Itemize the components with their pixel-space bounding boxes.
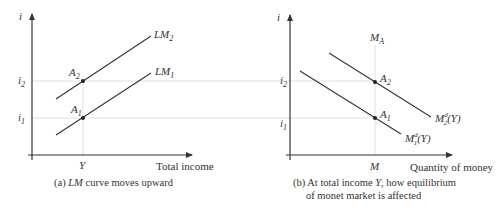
tick-i2: i2 [18, 74, 25, 89]
gridlines [32, 45, 375, 155]
md1-label: Md1(Y) [404, 131, 431, 147]
tick-i1: i1 [280, 117, 287, 132]
left-panel: i i2 i1 Y Total income LM2 LM1 A2 A1 (a)… [18, 10, 214, 189]
x-axis-label: Quantity of money [410, 161, 494, 173]
tick-m: M [369, 160, 380, 172]
md2-label: Md2(Y) [434, 111, 461, 127]
lm1-label: LM1 [154, 65, 174, 80]
a1-label: A1 [70, 103, 82, 118]
a2-label: A2 [379, 72, 391, 87]
caption-b-line2: of monet market is affected [306, 190, 422, 201]
lm2-label: LM2 [153, 28, 173, 43]
tick-i2: i2 [280, 74, 287, 89]
right-panel: i i2 i1 MA M Quantity of money A2 A1 Md2… [277, 11, 494, 201]
tick-i1: i1 [18, 111, 25, 126]
lm-diagram: i i2 i1 Y Total income LM2 LM1 A2 A1 (a)… [0, 0, 504, 210]
y-axis-label: i [277, 11, 280, 23]
point-a1 [373, 116, 377, 120]
a2-label: A2 [68, 66, 80, 81]
point-a2 [81, 79, 85, 83]
caption-a: (a) LM curve moves upward [54, 177, 174, 189]
y-axis-label: i [19, 10, 22, 22]
tick-y: Y [79, 159, 87, 171]
point-a2 [373, 80, 377, 84]
ma-label: MA [369, 31, 384, 46]
x-axis-label: Total income [156, 160, 214, 172]
caption-b-line1: (b) At total income Y, how equilibrium [293, 177, 456, 189]
